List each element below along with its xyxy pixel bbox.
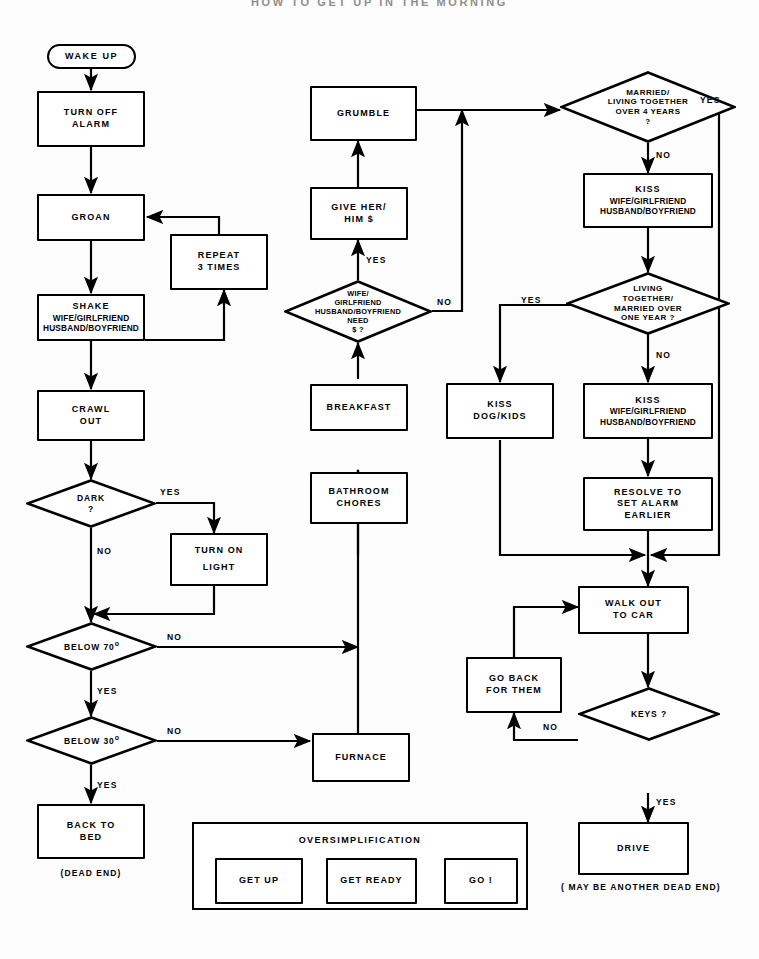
node-label-line: GET READY [340, 875, 402, 887]
node-label-line: SET ALARM [614, 498, 682, 510]
node-repeat-3-times[interactable]: REPEAT 3 TIMES [170, 234, 268, 290]
node-label-line: WIFE/GIRLFRIEND [600, 406, 696, 417]
node-label-line: REPEAT [198, 250, 241, 262]
node-give-money[interactable]: GIVE HER/ HIM $ [310, 187, 408, 240]
node-label-line: GO BACK [486, 673, 542, 685]
node-label-line: BELOW 70 [64, 642, 115, 652]
node-resolve-set-alarm[interactable]: RESOLVE TO SET ALARM EARLIER [583, 477, 713, 531]
node-back-to-bed[interactable]: BACK TO BED [37, 804, 145, 859]
node-label-line: WIFE/GIRLFRIEND [600, 196, 696, 207]
node-turn-off-alarm[interactable]: TURN OFF ALARM [37, 91, 145, 147]
panel-title: OVERSIMPLIFICATION [194, 835, 526, 845]
node-shake-partner[interactable]: SHAKE WIFE/GIRLFRIEND HUSBAND/BOYFRIEND [37, 294, 145, 341]
node-turn-on-light[interactable]: TURN ON LIGHT [170, 533, 268, 586]
node-label: KEYS ? [578, 687, 720, 741]
edge-dark-yes-to-light [156, 503, 214, 533]
node-label-line: CRAWL [72, 404, 111, 416]
inset-step-get-up[interactable]: GET UP [215, 858, 303, 904]
note-line: ( MAY BE ANOTHER [561, 882, 660, 892]
node-groan[interactable]: GROAN [37, 194, 145, 241]
node-label-line: TURN ON [195, 545, 244, 557]
inset-step-get-ready[interactable]: GET READY [326, 858, 417, 904]
node-walk-out-to-car[interactable]: WALK OUT TO CAR [578, 586, 689, 634]
node-label: LIVING TOGETHER/ MARRIED OVER ONE YEAR ? [566, 272, 730, 335]
node-label-line: LIVING TOGETHER [608, 97, 689, 107]
node-label-line: GIVE HER/ [331, 202, 386, 214]
node-label-line: OVER 4 YEARS [608, 107, 689, 117]
node-kiss-partner-1[interactable]: KISS WIFE/GIRLFRIEND HUSBAND/BOYFRIEND [583, 173, 713, 228]
node-living-over-1-decision[interactable]: LIVING TOGETHER/ MARRIED OVER ONE YEAR ? [566, 272, 730, 335]
node-label-line: 3 TIMES [198, 262, 241, 274]
node-label: MARRIED/ LIVING TOGETHER OVER 4 YEARS ? [560, 71, 736, 143]
edge-repeat-to-groan [147, 217, 219, 234]
node-label-line: ONE YEAR ? [614, 313, 682, 323]
node-label-line: HUSBAND/BOYFRIEND [315, 307, 401, 316]
node-label: BELOW 30o [26, 716, 157, 765]
node-dark-decision[interactable]: DARK ? [26, 479, 156, 528]
node-bathroom-chores[interactable]: BATHROOM CHORES [310, 472, 408, 524]
node-label-line: OUT [72, 416, 111, 428]
node-kiss-dog-kids[interactable]: KISS DOG/KIDS [446, 383, 554, 439]
node-label-line: ? [608, 117, 689, 127]
node-label-line: TOGETHER/ [614, 294, 682, 304]
node-label-line: TO CAR [605, 610, 662, 622]
edge-label-below70-yes: YES [97, 686, 118, 696]
note-may-be-dead-end: ( MAY BE ANOTHER DEAD END) [561, 882, 706, 893]
node-label-line: BED [67, 832, 116, 844]
node-label-line: BELOW 30 [64, 736, 115, 746]
node-label-line: MARRIED OVER [614, 304, 682, 314]
node-label-line: GO ! [469, 875, 493, 887]
node-need-money-decision[interactable]: WIFE/ GIRLFRIEND HUSBAND/BOYFRIEND NEED … [284, 280, 432, 343]
node-label-line: CHORES [328, 498, 389, 510]
node-drive[interactable]: DRIVE [578, 822, 689, 875]
edge-label-dark-yes: YES [160, 487, 181, 497]
node-label-line: MARRIED/ [608, 88, 689, 98]
node-label-line: TURN OFF [64, 107, 118, 119]
node-label-line: KEYS ? [631, 709, 667, 719]
edge-label-below70-no: NO [167, 632, 182, 642]
edge-label-below30-no: NO [167, 726, 182, 736]
edge-label-married4-no: NO [656, 150, 671, 160]
node-keys-decision[interactable]: KEYS ? [578, 687, 720, 741]
inset-step-go[interactable]: GO ! [444, 858, 518, 904]
node-label-line: GIRLFRIEND [315, 298, 401, 307]
node-label-line: RESOLVE TO [614, 487, 682, 499]
edge-goback-to-walkout [514, 607, 578, 657]
edge-label-below30-yes: YES [97, 780, 118, 790]
node-label-line: GET UP [239, 875, 279, 887]
node-label-line: WIFE/ [315, 289, 401, 298]
node-furnace[interactable]: FURNACE [312, 733, 410, 782]
node-label-line: $ ? [315, 325, 401, 334]
node-label-line: FURNACE [335, 752, 387, 764]
node-label-line: KISS [600, 184, 696, 196]
note-dead-end: (DEAD END) [37, 868, 145, 879]
node-grumble[interactable]: GRUMBLE [310, 86, 417, 141]
node-label-line: BREAKFAST [327, 402, 392, 414]
node-label: BELOW 70o [26, 622, 157, 671]
node-crawl-out[interactable]: CRAWL OUT [37, 390, 145, 441]
node-label-line: GROAN [72, 212, 111, 224]
edge-label-needmoney-yes: YES [366, 255, 387, 265]
edge-label-keys-no: NO [543, 722, 558, 732]
node-label-line: HIM $ [331, 214, 386, 226]
node-label-line: BACK TO [67, 820, 116, 832]
node-label-line: BATHROOM [328, 486, 389, 498]
edge-label-keys-yes: YES [656, 797, 677, 807]
node-label-line: KISS [473, 399, 526, 411]
node-breakfast[interactable]: BREAKFAST [310, 384, 408, 431]
edge-needmoney-no-up [432, 110, 462, 311]
edge-label-living1-yes: YES [521, 295, 542, 305]
node-label-line: ? [77, 504, 105, 514]
node-below-30-decision[interactable]: BELOW 30o [26, 716, 157, 765]
page-title: HOW TO GET UP IN THE MORNING [0, 0, 759, 8]
edge-label-dark-no: NO [97, 546, 112, 556]
node-below-70-decision[interactable]: BELOW 70o [26, 622, 157, 671]
node-married-over-4-decision[interactable]: MARRIED/ LIVING TOGETHER OVER 4 YEARS ? [560, 71, 736, 143]
node-kiss-partner-2[interactable]: KISS WIFE/GIRLFRIEND HUSBAND/BOYFRIEND [583, 383, 713, 439]
node-go-back-for-them[interactable]: GO BACK FOR THEM [466, 657, 562, 713]
node-wake-up[interactable]: WAKE UP [47, 44, 136, 69]
node-label-line: GRUMBLE [337, 108, 390, 120]
node-label-line: FOR THEM [486, 685, 542, 697]
note-line: DEAD END) [663, 882, 720, 892]
node-label: WIFE/ GIRLFRIEND HUSBAND/BOYFRIEND NEED … [284, 280, 432, 343]
